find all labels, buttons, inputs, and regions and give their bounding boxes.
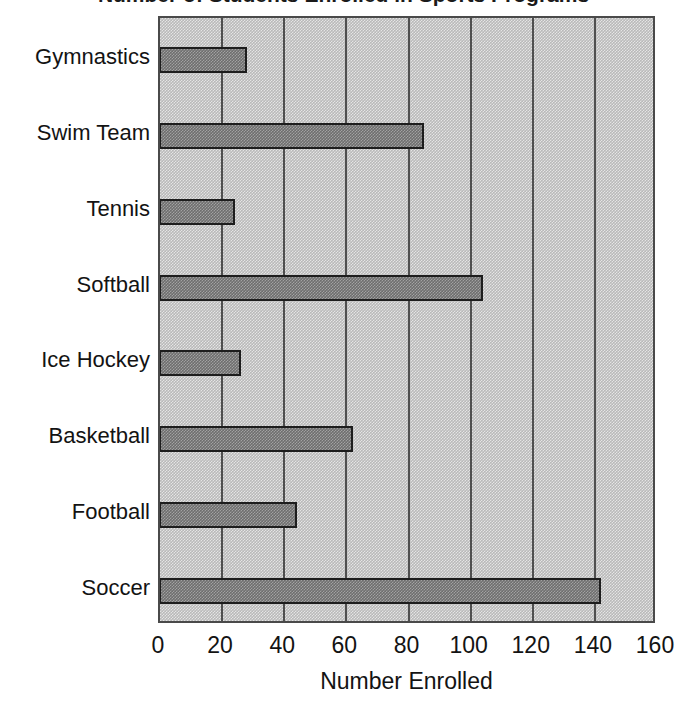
x-tick-label: 160 <box>620 630 687 660</box>
category-label: Softball <box>0 272 158 298</box>
bar <box>159 199 235 225</box>
bar-chart: Number Enrolled SoccerFootballBasketball… <box>0 0 687 708</box>
x-tick-label: 20 <box>185 630 255 660</box>
category-label: Swim Team <box>0 120 158 146</box>
gridline <box>408 18 410 621</box>
category-label: Ice Hockey <box>0 347 158 373</box>
bar <box>159 350 241 376</box>
category-label: Football <box>0 499 158 525</box>
gridline <box>470 18 472 621</box>
x-tick-label: 100 <box>434 630 504 660</box>
bar <box>159 275 483 301</box>
x-tick-label: 120 <box>496 630 566 660</box>
x-tick-label: 0 <box>123 630 193 660</box>
x-tick-label: 60 <box>309 630 379 660</box>
bar <box>159 47 247 73</box>
gridline <box>345 18 347 621</box>
x-tick-label: 140 <box>558 630 628 660</box>
category-label: Gymnastics <box>0 44 158 70</box>
gridline <box>221 18 223 621</box>
category-label: Tennis <box>0 196 158 222</box>
bar <box>159 578 601 604</box>
bar <box>159 426 353 452</box>
gridline <box>532 18 534 621</box>
x-axis-title: Number Enrolled <box>158 668 655 695</box>
x-tick-label: 80 <box>372 630 442 660</box>
x-tick-label: 40 <box>247 630 317 660</box>
bar <box>159 502 297 528</box>
gridline <box>594 18 596 621</box>
bar <box>159 123 424 149</box>
category-label: Soccer <box>0 575 158 601</box>
category-label: Basketball <box>0 423 158 449</box>
plot-area <box>158 16 655 623</box>
gridline <box>283 18 285 621</box>
